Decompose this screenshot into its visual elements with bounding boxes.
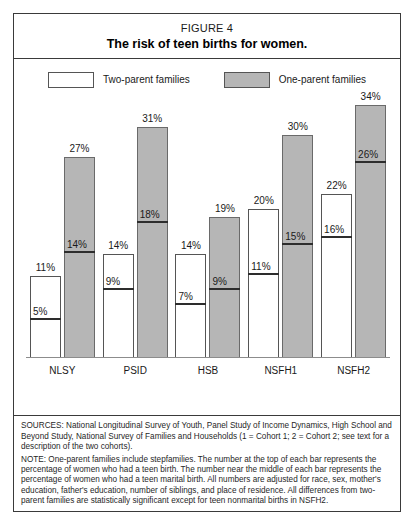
bar-hsb-one-parent: 19%9% — [209, 217, 240, 358]
x-axis-label-hsb: HSB — [175, 365, 240, 377]
bar-group-psid: 14%9%31%18% — [103, 127, 168, 358]
bar-total-label: 11% — [36, 262, 55, 274]
marital-divider — [30, 318, 61, 320]
bar-total-label: 14% — [181, 240, 201, 252]
legend-label-two-parent: Two-parent families — [103, 74, 190, 86]
bar-total-label: 14% — [108, 240, 128, 252]
chart-baseline — [26, 357, 390, 358]
bar-marital-label: 5% — [33, 306, 47, 318]
bar-total-label: 31% — [142, 113, 162, 125]
bar-marital-label: 18% — [140, 209, 160, 221]
bar-total-label: 30% — [288, 121, 308, 133]
bar-nlsy-one-parent: 27%14% — [64, 157, 95, 358]
bar-nsfh1-one-parent: 30%15% — [282, 135, 313, 358]
bar-group-hsb: 14%7%19%9% — [175, 217, 240, 358]
bar-group-nsfh2: 22%16%34%26% — [321, 105, 386, 358]
bar-marital-label: 14% — [67, 239, 87, 251]
legend-swatch-icon-two-parent — [48, 72, 94, 88]
marital-divider — [137, 221, 168, 223]
legend-item-one-parent: One-parent families — [224, 72, 366, 88]
bar-nsfh2-two-parent: 22%16% — [321, 194, 352, 358]
figure-frame: FIGURE 4 The risk of teen births for wom… — [13, 13, 401, 512]
bar-marital-label: 11% — [251, 261, 270, 273]
legend-label-one-parent: One-parent families — [279, 74, 366, 86]
x-axis-label-nsfh2: NSFH2 — [321, 365, 386, 377]
footnote-sources: SOURCES: National Longitudinal Survey of… — [21, 421, 393, 452]
marital-divider — [64, 251, 95, 253]
bar-marital-label: 26% — [358, 149, 378, 161]
bar-total-label: 22% — [327, 180, 347, 192]
bar-group-nsfh1: 20%11%30%15% — [248, 135, 313, 358]
bar-total-label: 27% — [69, 143, 89, 155]
bar-psid-one-parent: 31%18% — [137, 127, 168, 358]
chart-legend: Two-parent families One-parent families — [14, 59, 400, 90]
marital-divider — [103, 288, 134, 290]
figure-number: FIGURE 4 — [14, 21, 400, 35]
x-axis-label-nsfh1: NSFH1 — [248, 365, 313, 377]
bar-nlsy-two-parent: 11%5% — [30, 276, 61, 358]
bar-marital-label: 9% — [212, 276, 226, 288]
bar-group-nlsy: 11%5%27%14% — [30, 157, 95, 358]
bar-marital-label: 7% — [178, 291, 192, 303]
bar-nsfh2-one-parent: 34%26% — [355, 105, 386, 358]
legend-swatch-icon-one-parent — [224, 72, 270, 88]
bar-nsfh1-two-parent: 20%11% — [248, 209, 279, 358]
marital-divider — [355, 161, 386, 163]
chart-plot-area: 11%5%27%14%14%9%31%18%14%7%19%9%20%11%30… — [26, 90, 390, 358]
marital-divider — [248, 273, 279, 275]
bar-psid-two-parent: 14%9% — [103, 254, 134, 358]
marital-divider — [175, 303, 206, 305]
x-axis-label-nlsy: NLSY — [30, 365, 95, 377]
legend-item-two-parent: Two-parent families — [48, 72, 190, 88]
footnote-note: NOTE: One-parent families include stepfa… — [21, 455, 393, 506]
bar-hsb-two-parent: 14%7% — [175, 254, 206, 358]
marital-divider — [282, 243, 313, 245]
x-axis-label-psid: PSID — [103, 365, 168, 377]
marital-divider — [209, 288, 240, 290]
bar-marital-label: 9% — [106, 276, 120, 288]
bar-total-label: 20% — [254, 195, 274, 207]
bar-total-label: 34% — [361, 91, 381, 103]
footnotes-block: SOURCES: National Longitudinal Survey of… — [14, 415, 400, 511]
bar-marital-label: 16% — [324, 224, 344, 236]
marital-divider — [321, 236, 352, 238]
bar-marital-label: 15% — [285, 231, 305, 243]
page-title: The risk of teen births for women. — [14, 36, 400, 52]
bar-total-label: 19% — [215, 203, 235, 215]
bar-groups: 11%5%27%14%14%9%31%18%14%7%19%9%20%11%30… — [26, 90, 390, 358]
figure-title-block: FIGURE 4 The risk of teen births for wom… — [14, 14, 400, 59]
x-axis-labels: NLSYPSIDHSBNSFH1NSFH2 — [26, 358, 390, 377]
